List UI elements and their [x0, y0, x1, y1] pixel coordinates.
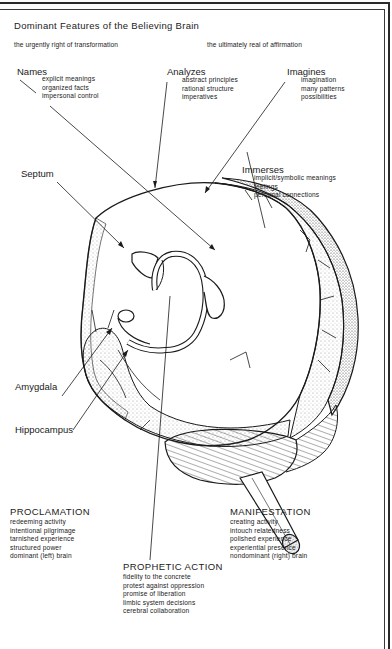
callout-analyzes: Analyzes abstract principles rational st…: [167, 66, 238, 102]
callout-analyzes-item: imperatives: [182, 93, 238, 102]
section-prophetic-action-item: promise of liberation: [123, 590, 223, 599]
section-proclamation: PROCLAMATION redeeming activity intentio…: [10, 506, 90, 561]
callout-analyzes-item: rational structure: [182, 85, 238, 94]
callout-immerses-item: feelings: [254, 183, 336, 192]
callout-imagines-item: imagination: [301, 76, 345, 85]
section-manifestation-item: nondominant (right) brain: [230, 552, 311, 561]
section-proclamation-item: redeeming activity: [10, 518, 90, 527]
section-manifestation-item: intouch relatedness: [230, 527, 311, 536]
section-proclamation-item: structured power: [10, 544, 90, 553]
section-proclamation-item: intentional pilgrimage: [10, 527, 90, 536]
section-prophetic-action-item: limbic system decisions: [123, 599, 223, 608]
callout-imagines-item: many patterns: [301, 85, 345, 94]
cerebellum: [165, 429, 297, 484]
section-manifestation-item: creating activity: [230, 518, 311, 527]
section-proclamation-heading: PROCLAMATION: [10, 506, 90, 518]
callout-imagines: Imagines imagination many patterns possi…: [287, 66, 345, 102]
section-prophetic-action-item: cerebral collaboration: [123, 607, 223, 616]
section-prophetic-action-item: protest against oppression: [123, 582, 223, 591]
label-amygdala: Amygdala: [15, 381, 57, 392]
section-prophetic-action-item: fidelity to the concrete: [123, 573, 223, 582]
label-hippocampus: Hippocampus: [15, 424, 73, 435]
callout-names-item: organized facts: [42, 84, 99, 93]
section-manifestation: MANIFESTATION creating activity intouch …: [230, 506, 311, 561]
callout-names: Names explicit meanings organized facts …: [17, 66, 99, 101]
section-proclamation-item: tarnished experience: [10, 535, 90, 544]
callout-immerses: Immerses implicit/symbolic meanings feel…: [242, 164, 336, 200]
callout-immerses-item: implicit/symbolic meanings: [254, 174, 336, 183]
callout-immerses-item: personal connections: [254, 191, 336, 200]
section-manifestation-item: experiential presence: [230, 544, 311, 553]
section-prophetic-action: PROPHETIC ACTION fidelity to the concret…: [123, 561, 223, 616]
label-septum: Septum: [21, 168, 54, 179]
section-manifestation-item: polished experience: [230, 535, 311, 544]
section-prophetic-action-heading: PROPHETIC ACTION: [123, 561, 223, 573]
subtitle-right: the ultimately real of affirmation: [207, 41, 302, 48]
callout-analyzes-item: abstract principles: [182, 76, 238, 85]
subtitle-left: the urgently right of transformation: [14, 41, 118, 48]
callout-names-item: explicit meanings: [42, 75, 99, 84]
section-manifestation-heading: MANIFESTATION: [230, 506, 311, 518]
section-proclamation-item: dominant (left) brain: [10, 552, 90, 561]
diagram-title: Dominant Features of the Believing Brain: [14, 20, 199, 31]
callout-imagines-item: possibilities: [301, 93, 345, 102]
callout-names-item: impersonal control: [42, 92, 99, 101]
